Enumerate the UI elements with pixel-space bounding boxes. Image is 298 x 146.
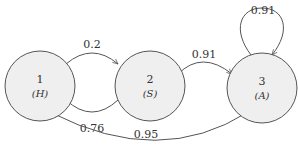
edge-2-to-1 <box>66 100 118 112</box>
edge-label-1-to-2: 0.2 <box>83 38 101 51</box>
node-2: 2 (S) <box>115 51 185 121</box>
node-3: 3 (A) <box>227 53 297 123</box>
node-1-number: 1 <box>37 73 44 86</box>
edge-label-3-to-1: 0.95 <box>134 128 159 141</box>
node-1: 1 (H) <box>5 51 75 121</box>
node-2-number: 2 <box>147 73 154 86</box>
node-1-label: (H) <box>32 88 49 99</box>
node-3-number: 3 <box>259 75 266 88</box>
node-3-label: (A) <box>254 90 269 101</box>
edge-label-3-self: 0.91 <box>251 4 276 17</box>
node-2-label: (S) <box>143 88 158 99</box>
state-diagram: 0.2 0.76 0.91 0.91 0.95 1 (H) 2 (S) 3 (A… <box>0 0 298 146</box>
edge-1-to-2 <box>66 53 118 64</box>
edge-label-2-to-1: 0.76 <box>80 122 105 135</box>
edge-2-to-3 <box>178 62 232 74</box>
edge-label-2-to-3: 0.91 <box>192 48 217 61</box>
